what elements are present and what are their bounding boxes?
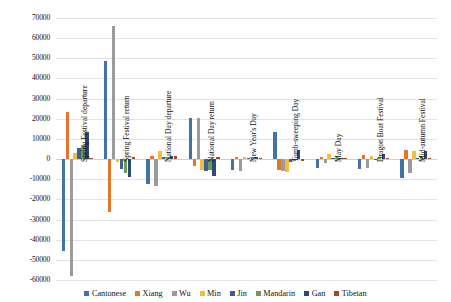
bar (197, 118, 200, 159)
bar (366, 159, 369, 168)
legend-swatch-icon (84, 291, 89, 296)
bar-chart: Spring Festival departureSpring Festival… (0, 0, 451, 302)
bar (89, 158, 92, 159)
legend-label: Wu (179, 289, 191, 298)
y-axis-tick: 30000 (0, 95, 50, 103)
bar (150, 156, 153, 159)
bar (174, 156, 177, 159)
bar (428, 158, 431, 159)
bar (235, 157, 238, 159)
y-axis-tick: -60000 (0, 276, 50, 284)
legend-item[interactable]: Mandarin (256, 289, 295, 298)
bar (243, 157, 246, 159)
legend-label: Jin (237, 289, 247, 298)
bar-group: National Day departure (141, 18, 183, 280)
legend-item[interactable]: Gan (304, 289, 325, 298)
bar-group: New Year's Day (225, 18, 267, 280)
bar-group: National Day return (183, 18, 225, 280)
legend-label: Mandarin (263, 289, 295, 298)
bar (116, 159, 119, 162)
bar (408, 159, 411, 173)
bar (362, 155, 365, 159)
bar-group: Spring Festival departure (56, 18, 98, 280)
bar (273, 132, 276, 159)
y-axis-tick: -50000 (0, 256, 50, 264)
legend-item[interactable]: Tibetan (334, 289, 366, 298)
bar (370, 156, 373, 159)
plot-area: Spring Festival departureSpring Festival… (56, 18, 437, 280)
legend-swatch-icon (334, 291, 339, 296)
bar-group: Mid-autumn Festival (395, 18, 437, 280)
bar (259, 158, 262, 159)
bar-group: Dragon Boat Festival (352, 18, 394, 280)
y-axis-tick: 10000 (0, 135, 50, 143)
bar (343, 158, 346, 159)
legend-label: Min (207, 289, 221, 298)
bar (216, 157, 219, 159)
x-axis-category-label: May Day (335, 134, 343, 162)
bar (108, 159, 111, 212)
x-axis-category-label: Tomb-sweeping Day (292, 99, 300, 162)
bar (400, 159, 403, 178)
x-axis-category-label: National Day departure (165, 91, 173, 162)
bar (412, 151, 415, 159)
y-axis-tick: 70000 (0, 14, 50, 22)
chart-legend: CantoneseXiangWuMinJinMandarinGanTibetan (0, 289, 451, 298)
bar (200, 159, 203, 170)
legend-swatch-icon (256, 291, 261, 296)
bar (62, 159, 65, 251)
bar-group: Spring Festival return (98, 18, 140, 280)
bar (158, 151, 161, 159)
bar (154, 159, 157, 186)
bar (281, 159, 284, 171)
y-axis-tick: 40000 (0, 75, 50, 83)
y-axis-tick: -20000 (0, 196, 50, 204)
bar (193, 159, 196, 166)
legend-item[interactable]: Wu (172, 289, 191, 298)
bar (358, 159, 361, 169)
legend-item[interactable]: Cantonese (84, 289, 126, 298)
bar-group: Tomb-sweeping Day (268, 18, 310, 280)
bar (231, 159, 234, 169)
bar (277, 159, 280, 169)
grid-line (56, 280, 437, 281)
x-axis-category-label: New Year's Day (250, 113, 258, 162)
y-axis-tick: -10000 (0, 175, 50, 183)
y-axis-tick: 50000 (0, 55, 50, 63)
legend-swatch-icon (304, 291, 309, 296)
bar (324, 159, 327, 163)
legend-item[interactable]: Min (200, 289, 221, 298)
legend-label: Cantonese (92, 289, 126, 298)
bar (112, 26, 115, 159)
bar (320, 157, 323, 159)
bar (301, 159, 304, 161)
bar (73, 153, 76, 159)
legend-label: Tibetan (342, 289, 367, 298)
y-axis-tick: 0 (0, 155, 50, 163)
bar-group: May Day (310, 18, 352, 280)
bar (104, 61, 107, 159)
x-axis-category-label: Mid-autumn Festival (419, 98, 427, 162)
legend-item[interactable]: Xiang (135, 289, 163, 298)
bar (316, 159, 319, 168)
y-axis-tick: 20000 (0, 115, 50, 123)
x-axis-category-label: National Day return (208, 101, 216, 162)
bar (132, 157, 135, 159)
legend-swatch-icon (172, 291, 177, 296)
legend-item[interactable]: Jin (230, 289, 247, 298)
legend-swatch-icon (230, 291, 235, 296)
y-axis-tick: -30000 (0, 216, 50, 224)
legend-label: Gan (312, 289, 326, 298)
legend-label: Xiang (143, 289, 163, 298)
x-axis-category-label: Spring Festival departure (81, 85, 89, 162)
x-axis-category-label: Spring Festival return (123, 96, 131, 162)
bar (189, 118, 192, 159)
y-axis-tick: -40000 (0, 236, 50, 244)
x-axis-category-label: Dragon Boat Festival (377, 97, 385, 162)
legend-swatch-icon (135, 291, 140, 296)
bar (404, 150, 407, 159)
bar (70, 159, 73, 275)
bar (146, 159, 149, 184)
bar (66, 112, 69, 159)
bar (327, 154, 330, 159)
